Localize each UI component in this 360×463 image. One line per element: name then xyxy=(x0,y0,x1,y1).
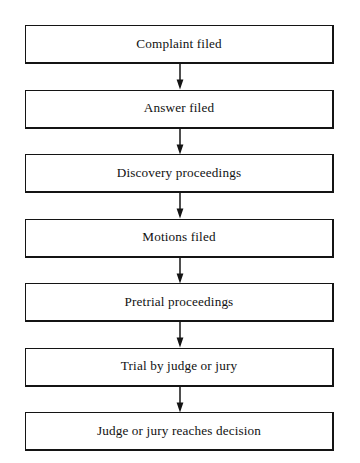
down-arrow-icon xyxy=(173,64,187,90)
flowchart-node-judge-or-jury-reaches-decision: Judge or jury reaches decision xyxy=(25,412,334,451)
down-arrow-icon xyxy=(173,258,187,284)
flowchart-node-label: Motions filed xyxy=(142,230,215,244)
flowchart-node-complaint-filed: Complaint filed xyxy=(25,25,334,64)
down-arrow-icon xyxy=(173,387,187,413)
flowchart-node-label: Pretrial proceedings xyxy=(125,295,234,309)
flowchart-node-label: Discovery proceedings xyxy=(117,166,241,180)
down-arrow-icon xyxy=(173,129,187,155)
flowchart-node-label: Complaint filed xyxy=(136,37,221,51)
down-arrow-icon xyxy=(173,322,187,348)
flowchart-node-label: Trial by judge or jury xyxy=(121,359,237,373)
flowchart-node-answer-filed: Answer filed xyxy=(25,90,334,129)
flowchart-node-motions-filed: Motions filed xyxy=(25,219,334,258)
flowchart-node-trial-by-judge-or-jury: Trial by judge or jury xyxy=(25,348,334,387)
flowchart-diagram: Complaint filed Answer filed Discovery p… xyxy=(0,0,360,463)
flowchart-node-label: Answer filed xyxy=(144,101,214,115)
down-arrow-icon xyxy=(173,193,187,219)
flowchart-node-label: Judge or jury reaches decision xyxy=(97,424,261,438)
flowchart-node-pretrial-proceedings: Pretrial proceedings xyxy=(25,283,334,322)
flowchart-node-discovery-proceedings: Discovery proceedings xyxy=(25,154,334,193)
